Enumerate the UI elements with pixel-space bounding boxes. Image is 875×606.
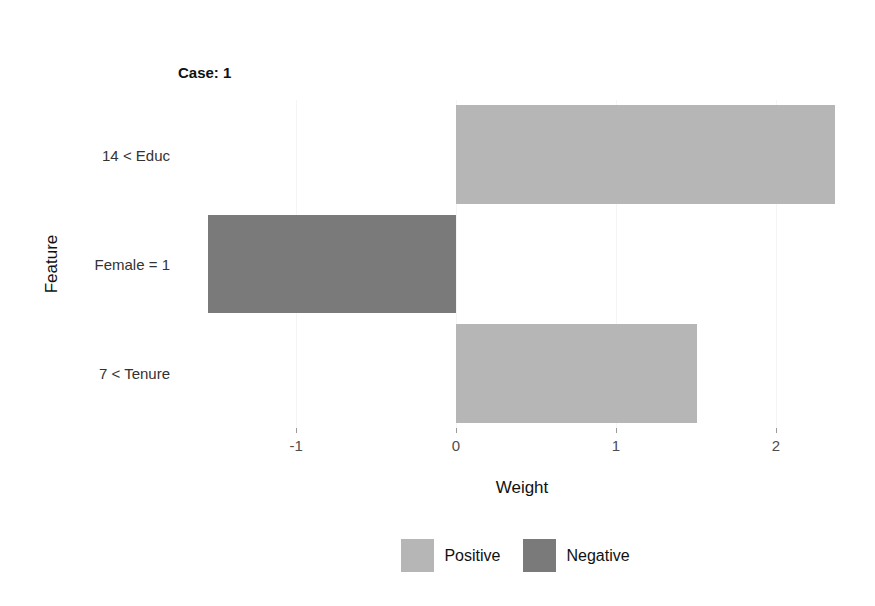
x-tick-label-0: 0 [452, 437, 460, 454]
bar-female-1 [208, 215, 456, 313]
legend: Positive Negative [177, 539, 867, 572]
y-axis-title: Feature [42, 235, 62, 294]
bar-14-educ [456, 105, 835, 203]
plot-panel [177, 100, 867, 428]
x-tick-mark-2 [776, 428, 777, 433]
legend-swatch-negative [523, 539, 556, 572]
y-label-7-tenure: 7 < Tenure [99, 365, 170, 382]
x-tick-label--1: -1 [289, 437, 302, 454]
x-tick-mark-0 [456, 428, 457, 433]
y-label-14-educ: 14 < Educ [102, 146, 170, 163]
y-label-female-1: Female = 1 [95, 256, 170, 273]
title-case: Case: 1 [178, 62, 390, 84]
x-tick-label-1: 1 [612, 437, 620, 454]
x-tick-mark-1 [616, 428, 617, 433]
x-tick-label-2: 2 [772, 437, 780, 454]
lime-explanation-plot: Case: 1 Prediction: 9.23620080622151 Exp… [0, 0, 875, 606]
x-tick-mark--1 [296, 428, 297, 433]
legend-label-positive: Positive [444, 547, 500, 565]
x-axis-title: Weight [496, 478, 549, 498]
bar-7-tenure [456, 324, 697, 422]
legend-label-negative: Negative [566, 547, 629, 565]
legend-swatch-positive [401, 539, 434, 572]
